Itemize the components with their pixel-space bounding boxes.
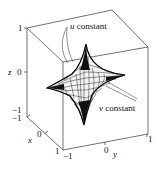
z-tick-mid: 0 [17,67,22,77]
x-axis-label: x [27,135,32,145]
u-constant-curve [62,27,73,63]
x-tick-front: 1 [55,146,60,156]
u-constant-text: constant [75,21,108,31]
y-tick-right: 1 [148,134,153,144]
y-tick-mid: 0 [104,145,109,155]
z-tick-top: 1 [18,23,23,33]
v-constant-label: v constant [99,103,136,113]
v-constant-curve [106,82,137,101]
x-tick-back: −1 [12,113,22,123]
y-tick-left: −1 [63,151,73,161]
u-constant-label: u constant [70,21,107,31]
surface-plot: 1 z 0 −1 −1 0 x 1 −1 0 y 1 u constant v … [0,0,158,170]
x-tick-mid: 0 [37,129,42,139]
z-axis-label: z [7,67,12,77]
y-axis-label: y [112,149,117,159]
v-constant-text: constant [103,103,136,113]
